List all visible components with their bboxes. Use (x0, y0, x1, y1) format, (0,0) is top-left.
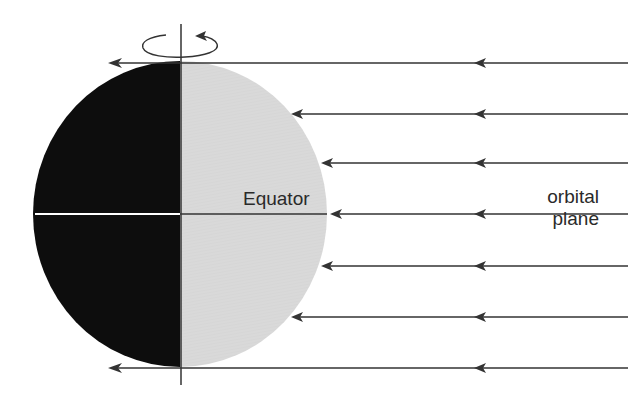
ray-5 (321, 261, 628, 271)
orbital-label-line1: orbital (547, 186, 599, 208)
equator-label: Equator (243, 188, 310, 210)
orbital-plane-label: orbital plane (547, 186, 599, 230)
counterclockwise-rotation-arrow-icon (143, 31, 218, 57)
ray-6 (291, 312, 628, 322)
ray-2 (291, 109, 628, 119)
earth-illumination-diagram (0, 0, 631, 399)
orbital-label-line2: plane (547, 208, 599, 230)
ray-3 (321, 158, 628, 168)
